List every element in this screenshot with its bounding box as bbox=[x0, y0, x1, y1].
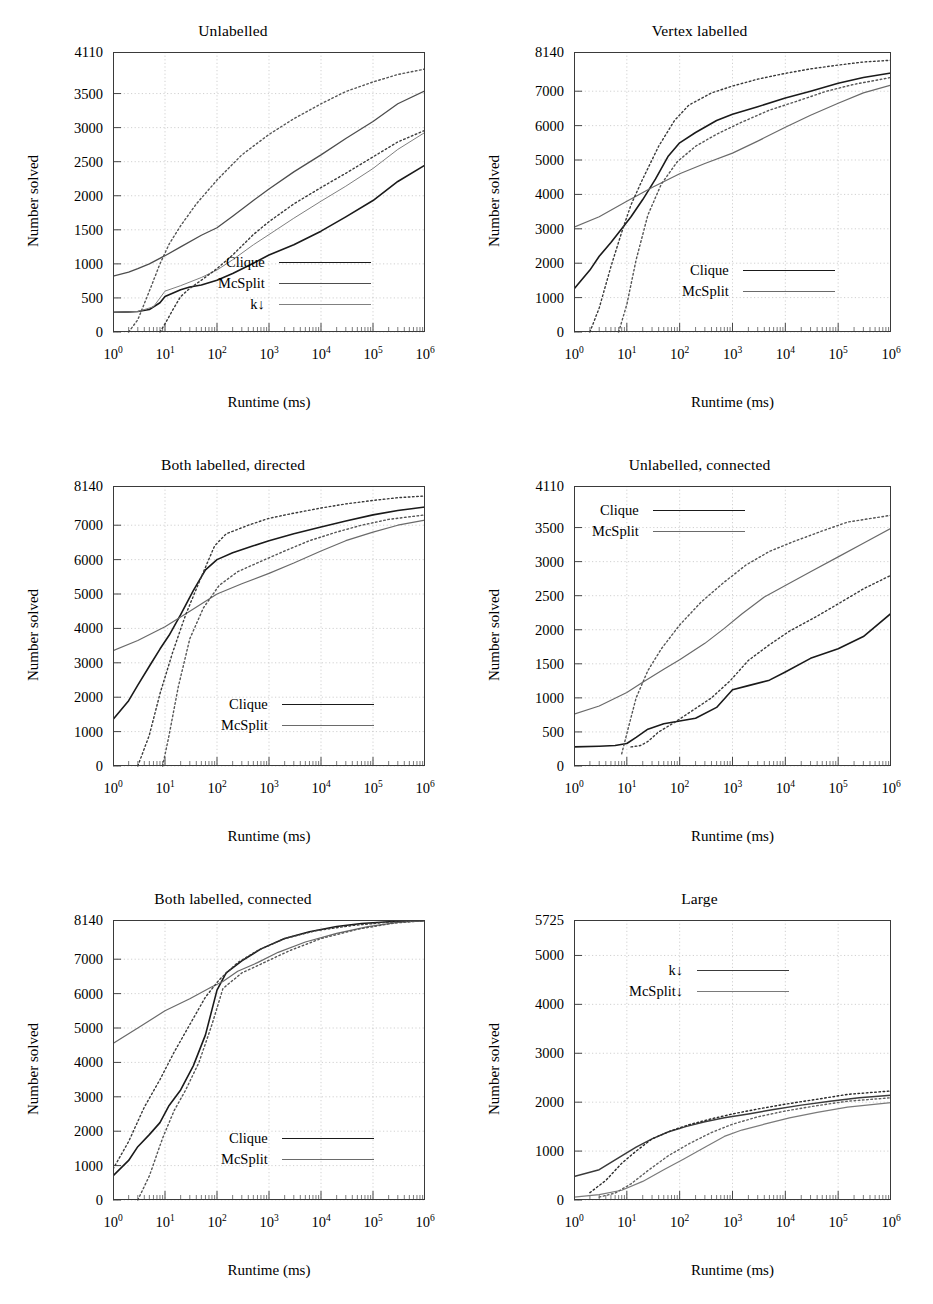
y-tick-label: 0 bbox=[37, 758, 103, 775]
legend-label: k↓ bbox=[250, 296, 279, 313]
legend: k↓McSplit↓ bbox=[629, 960, 789, 1002]
y-tick-label: 500 bbox=[37, 289, 103, 306]
y-tick-label: 3000 bbox=[37, 1088, 103, 1105]
legend-item: k↓ bbox=[218, 294, 371, 315]
y-tick-label: 0 bbox=[498, 758, 564, 775]
legend-label: McSplit bbox=[592, 523, 653, 540]
y-tick-label: 3000 bbox=[498, 220, 564, 237]
legend-swatch bbox=[279, 283, 371, 284]
y-tick-label: 2000 bbox=[37, 187, 103, 204]
legend-label: Clique bbox=[690, 262, 743, 279]
y-tick-label: 2000 bbox=[498, 621, 564, 638]
legend-swatch bbox=[743, 270, 835, 271]
legend-label: McSplit↓ bbox=[629, 983, 697, 1000]
x-axis-label: Runtime (ms) bbox=[113, 828, 425, 845]
legend-label: McSplit bbox=[221, 717, 282, 734]
y-tick-label: 3500 bbox=[37, 85, 103, 102]
x-axis-label: Runtime (ms) bbox=[113, 394, 425, 411]
y-tick-label: 2000 bbox=[37, 689, 103, 706]
panel-unlabelled-connected: Unlabelled, connectedNumber solvedRuntim… bbox=[466, 434, 933, 868]
legend-label: McSplit bbox=[682, 283, 743, 300]
y-tick-label: 4110 bbox=[498, 478, 564, 495]
panel-title: Unlabelled bbox=[0, 22, 466, 40]
y-tick-label: 6000 bbox=[37, 985, 103, 1002]
y-tick-label: 1000 bbox=[498, 289, 564, 306]
y-tick-label: 3000 bbox=[498, 553, 564, 570]
x-axis-label: Runtime (ms) bbox=[574, 394, 891, 411]
y-tick-label: 5000 bbox=[37, 1020, 103, 1037]
y-tick-label: 7000 bbox=[37, 517, 103, 534]
y-tick-label: 0 bbox=[498, 324, 564, 341]
panel-both-labelled-directed: Both labelled, directedNumber solvedRunt… bbox=[0, 434, 466, 868]
legend-item: Clique bbox=[221, 694, 374, 715]
y-tick-label: 6000 bbox=[37, 551, 103, 568]
y-tick-label: 0 bbox=[37, 324, 103, 341]
legend-label: McSplit bbox=[218, 275, 279, 292]
y-tick-label: 4000 bbox=[498, 996, 564, 1013]
legend-label: McSplit bbox=[221, 1151, 282, 1168]
legend-item: McSplit↓ bbox=[629, 981, 789, 1002]
y-tick-label: 1000 bbox=[37, 1157, 103, 1174]
legend-swatch bbox=[282, 1138, 374, 1139]
y-tick-label: 4110 bbox=[37, 44, 103, 61]
legend-item: McSplit bbox=[682, 281, 835, 302]
legend-item: McSplit bbox=[221, 1149, 374, 1170]
panel-title: Both labelled, directed bbox=[0, 456, 466, 474]
legend: CliqueMcSplitk↓ bbox=[218, 252, 371, 315]
panel-title: Unlabelled, connected bbox=[466, 456, 933, 474]
legend-item: McSplit bbox=[592, 521, 745, 542]
y-tick-label: 7000 bbox=[37, 951, 103, 968]
y-tick-label: 8140 bbox=[498, 44, 564, 61]
legend-swatch bbox=[697, 991, 789, 992]
y-tick-label: 2500 bbox=[498, 587, 564, 604]
y-tick-label: 1000 bbox=[498, 1143, 564, 1160]
y-tick-label: 8140 bbox=[37, 912, 103, 929]
legend-label: Clique bbox=[229, 696, 282, 713]
legend: CliqueMcSplit bbox=[221, 1128, 374, 1170]
x-axis-label: Runtime (ms) bbox=[574, 828, 891, 845]
legend-item: McSplit bbox=[218, 273, 371, 294]
y-tick-label: 1000 bbox=[498, 689, 564, 706]
legend-swatch bbox=[653, 510, 745, 511]
y-tick-label: 6000 bbox=[498, 117, 564, 134]
x-axis-label: Runtime (ms) bbox=[574, 1262, 891, 1279]
y-tick-label: 5000 bbox=[498, 947, 564, 964]
legend: CliqueMcSplit bbox=[682, 260, 835, 302]
y-tick-label: 3000 bbox=[37, 654, 103, 671]
legend-item: Clique bbox=[218, 252, 371, 273]
legend-swatch bbox=[282, 704, 374, 705]
legend-label: Clique bbox=[600, 502, 653, 519]
legend-label: Clique bbox=[229, 1130, 282, 1147]
legend-swatch bbox=[279, 304, 371, 305]
panel-large: LargeNumber solvedRuntime (ms)0100020003… bbox=[466, 868, 933, 1304]
y-tick-label: 500 bbox=[498, 723, 564, 740]
y-tick-label: 0 bbox=[498, 1192, 564, 1209]
y-tick-label: 5000 bbox=[37, 586, 103, 603]
y-tick-label: 3500 bbox=[498, 519, 564, 536]
y-tick-label: 5000 bbox=[498, 152, 564, 169]
y-tick-label: 3000 bbox=[37, 119, 103, 136]
legend-swatch bbox=[282, 725, 374, 726]
legend-swatch bbox=[279, 262, 371, 263]
legend-item: k↓ bbox=[629, 960, 789, 981]
legend-item: Clique bbox=[592, 500, 745, 521]
y-tick-label: 1000 bbox=[37, 255, 103, 272]
panel-vertex-labelled: Vertex labelledNumber solvedRuntime (ms)… bbox=[466, 0, 933, 434]
panel-both-labelled-connected: Both labelled, connectedNumber solvedRun… bbox=[0, 868, 466, 1304]
y-tick-label: 0 bbox=[37, 1192, 103, 1209]
y-tick-label: 4000 bbox=[37, 620, 103, 637]
panel-unlabelled: UnlabelledNumber solvedRuntime (ms)05001… bbox=[0, 0, 466, 434]
legend-swatch bbox=[743, 291, 835, 292]
legend-label: Clique bbox=[226, 254, 279, 271]
y-tick-label: 5725 bbox=[498, 912, 564, 929]
legend-item: McSplit bbox=[221, 715, 374, 736]
y-tick-label: 2500 bbox=[37, 153, 103, 170]
y-tick-label: 8140 bbox=[37, 478, 103, 495]
legend: CliqueMcSplit bbox=[592, 500, 745, 542]
y-tick-label: 1500 bbox=[498, 655, 564, 672]
y-tick-label: 2000 bbox=[498, 1094, 564, 1111]
panel-title: Large bbox=[466, 890, 933, 908]
y-tick-label: 7000 bbox=[498, 83, 564, 100]
y-tick-label: 4000 bbox=[37, 1054, 103, 1071]
x-axis-label: Runtime (ms) bbox=[113, 1262, 425, 1279]
